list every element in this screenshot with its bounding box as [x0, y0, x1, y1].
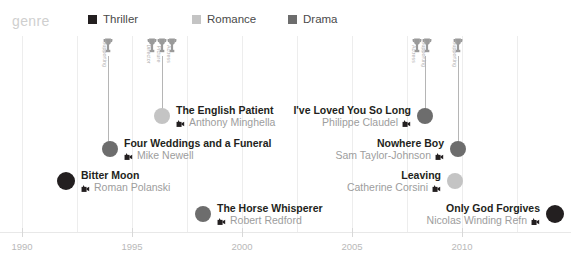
film-genre-dot[interactable] [447, 173, 463, 189]
award-marker[interactable]: Supporting [452, 38, 464, 86]
film-genre-dot[interactable] [154, 108, 170, 124]
award-marker[interactable]: Supporting [102, 38, 114, 86]
axis-tick [132, 228, 133, 237]
axis-tick [242, 228, 243, 237]
award-category-label: Supporting [102, 41, 108, 67]
film-title: Only God Forgives [446, 202, 540, 214]
movie-camera-icon [435, 151, 444, 160]
legend-swatch-icon [88, 15, 97, 24]
gridline [77, 36, 78, 232]
axis-baseline [0, 232, 571, 233]
legend-item-thriller[interactable]: Thriller [88, 13, 138, 25]
legend-item-label: Romance [207, 13, 256, 25]
legend-swatch-icon [192, 15, 201, 24]
film-director: Sam Taylor-Johnson [335, 149, 431, 161]
genre-axis-label: genre [12, 13, 50, 29]
award-category-label: Actress [411, 45, 417, 63]
film-entry[interactable]: Four Weddings and a Funeral Mike Newell [102, 137, 271, 161]
movie-camera-icon [432, 183, 441, 192]
film-entry[interactable]: Nowhere Boy Sam Taylor-Johnson [335, 137, 466, 161]
legend-item-drama[interactable]: Drama [288, 13, 338, 25]
axis-tick-label: 1995 [121, 241, 142, 252]
film-title: Four Weddings and a Funeral [124, 137, 271, 149]
film-title: Nowhere Boy [377, 137, 444, 149]
award-category-label: Picture [156, 46, 162, 63]
film-entry[interactable]: The Horse Whisperer Robert Redford [195, 202, 323, 226]
legend-swatch-icon [288, 15, 297, 24]
film-director: Philippe Claudel [322, 116, 398, 128]
film-genre-dot[interactable] [417, 108, 433, 124]
movie-camera-icon [217, 216, 226, 225]
timeline-chart: genre ThrillerRomanceDrama 1990199520002… [0, 0, 571, 267]
axis-tick-label: 2005 [341, 241, 362, 252]
film-director: Robert Redford [230, 214, 302, 226]
movie-camera-icon [176, 118, 185, 127]
film-entry[interactable]: I've Loved You So Long Philippe Claudel [293, 104, 433, 128]
axis-tick [352, 228, 353, 237]
film-director: Anthony Minghella [189, 116, 275, 128]
award-category-label: Supporting [452, 41, 458, 67]
film-genre-dot[interactable] [195, 206, 211, 222]
film-title: The English Patient [176, 104, 273, 116]
movie-camera-icon [124, 151, 133, 160]
axis-tick [22, 228, 23, 237]
film-genre-dot[interactable] [57, 172, 75, 190]
film-entry[interactable]: The English Patient Anthony Minghella [154, 104, 275, 128]
award-marker[interactable]: Actress [166, 38, 178, 86]
movie-camera-icon [81, 183, 90, 192]
award-category-label: Director [146, 45, 152, 64]
gridline [187, 36, 188, 232]
film-director: Catherine Corsini [347, 181, 428, 193]
gridline [132, 36, 133, 232]
film-director: Roman Polanski [94, 181, 170, 193]
axis-tick-label: 2010 [451, 241, 472, 252]
gridline [22, 36, 23, 232]
film-director: Mike Newell [137, 149, 194, 161]
film-title: I've Loved You So Long [293, 104, 411, 116]
movie-camera-icon [531, 216, 540, 225]
legend-item-romance[interactable]: Romance [192, 13, 256, 25]
film-director: Nicolas Winding Refn [427, 214, 527, 226]
gridline [352, 36, 353, 232]
film-genre-dot[interactable] [546, 205, 564, 223]
film-entry[interactable]: Only God Forgives Nicolas Winding Refn [427, 202, 564, 226]
award-category-label: Actress [166, 45, 172, 63]
legend-item-label: Thriller [103, 13, 138, 25]
film-entry[interactable]: Bitter Moon Roman Polanski [57, 169, 170, 193]
award-category-label: Supporting [421, 41, 427, 67]
legend-item-label: Drama [303, 13, 338, 25]
film-entry[interactable]: Leaving Catherine Corsini [347, 169, 463, 193]
film-title: Leaving [401, 169, 441, 181]
axis-tick-label: 1990 [11, 241, 32, 252]
film-title: Bitter Moon [81, 169, 139, 181]
film-genre-dot[interactable] [102, 141, 118, 157]
movie-camera-icon [402, 118, 411, 127]
gridline [407, 36, 408, 232]
axis-tick [462, 228, 463, 237]
award-marker[interactable]: Supporting [421, 38, 433, 86]
film-genre-dot[interactable] [450, 141, 466, 157]
film-title: The Horse Whisperer [217, 202, 323, 214]
axis-tick-label: 2000 [231, 241, 252, 252]
